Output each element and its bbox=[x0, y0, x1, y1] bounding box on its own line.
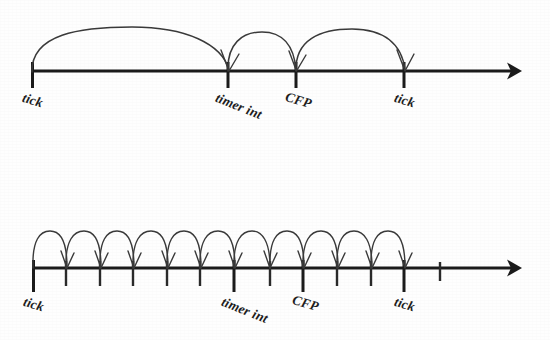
bottom-arc-6 bbox=[200, 231, 235, 268]
top-panel-group bbox=[32, 27, 522, 88]
bottom-panel-group bbox=[33, 231, 522, 292]
bottom-arc-2 bbox=[66, 231, 101, 268]
bottom-arc-1 bbox=[33, 231, 67, 268]
bottom-arc-7 bbox=[234, 231, 270, 268]
bottom-arc-9 bbox=[303, 231, 338, 268]
top-arc-2 bbox=[228, 32, 296, 71]
bottom-arc-4-arrowhead bbox=[162, 251, 175, 268]
bottom-arc-set bbox=[33, 231, 412, 268]
bottom-arc-8 bbox=[270, 231, 304, 268]
timeline-diagram-svg bbox=[0, 0, 550, 340]
bottom-arc-5-arrowhead bbox=[195, 251, 208, 268]
bottom-arc-4 bbox=[133, 231, 168, 268]
bottom-arc-3-arrowhead bbox=[128, 251, 141, 268]
diagram-canvas: tick timer int CFP tick tick timer int C… bbox=[0, 0, 550, 340]
bottom-arc-11-arrowhead bbox=[399, 251, 412, 268]
bottom-arc-9-arrowhead bbox=[332, 251, 345, 268]
top-arc-2-arrowhead bbox=[289, 51, 306, 71]
bottom-arc-2-arrowhead bbox=[95, 251, 108, 268]
bottom-arc-11 bbox=[371, 231, 405, 268]
bottom-arc-10-arrowhead bbox=[366, 251, 379, 268]
top-arc-1 bbox=[32, 27, 229, 72]
bottom-arc-6-arrowhead bbox=[229, 251, 242, 268]
bottom-arc-5 bbox=[167, 231, 201, 268]
bottom-arc-8-arrowhead bbox=[298, 251, 311, 268]
top-arc-3 bbox=[296, 29, 405, 71]
bottom-arc-10 bbox=[337, 231, 372, 268]
bottom-arc-3 bbox=[100, 231, 134, 268]
bottom-arc-1-arrowhead bbox=[61, 251, 74, 268]
